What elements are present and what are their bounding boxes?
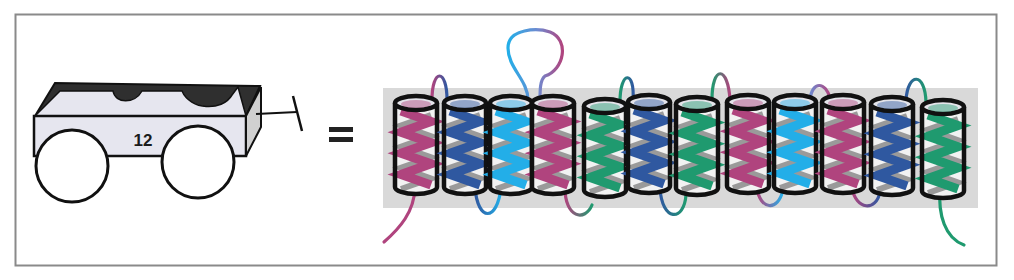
transmembrane-helices — [395, 95, 964, 198]
cart-wheel-right — [162, 126, 234, 198]
helix-5 — [584, 99, 626, 197]
helix-11 — [871, 97, 913, 195]
helix-3 — [490, 96, 532, 194]
helix-8 — [727, 95, 769, 193]
helix-6 — [628, 95, 670, 193]
cart-label: 12 — [134, 131, 153, 150]
cart-wheel-left — [36, 130, 108, 202]
helix-12 — [922, 100, 964, 198]
helix-9 — [774, 95, 816, 193]
helix-4 — [532, 96, 574, 194]
helix-1 — [395, 96, 437, 194]
protein-cart-diagram: 12 — [0, 0, 1014, 280]
helix-10 — [822, 95, 864, 193]
helix-7 — [676, 97, 718, 195]
helix-2 — [444, 96, 486, 194]
